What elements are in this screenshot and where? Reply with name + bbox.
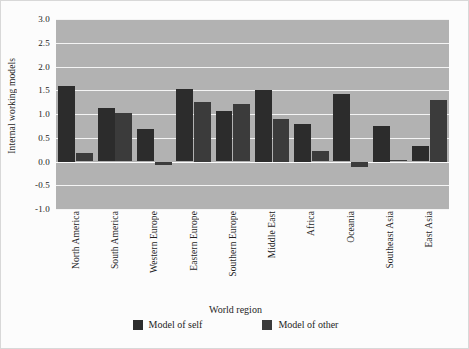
y-tick-label: -0.5 bbox=[35, 180, 50, 190]
x-tick-label: Oceania bbox=[346, 211, 356, 243]
x-tick-label: South America bbox=[110, 211, 120, 269]
x-tick-label: Eastern Europe bbox=[189, 211, 199, 271]
bar-chart-figure: Internal working models 3.02.52.01.51.00… bbox=[0, 0, 469, 349]
bar bbox=[98, 108, 115, 161]
bars-layer bbox=[56, 19, 449, 209]
bar bbox=[76, 153, 93, 162]
y-tick-label: 1.5 bbox=[38, 85, 50, 95]
bar-group bbox=[253, 19, 292, 209]
bar bbox=[137, 129, 154, 161]
y-tick-label: 3.0 bbox=[38, 14, 50, 24]
bar-group bbox=[410, 19, 449, 209]
legend-entry: Model of self bbox=[133, 319, 203, 330]
y-tick-label: 1.0 bbox=[38, 109, 50, 119]
bar-group bbox=[292, 19, 331, 209]
plot-area bbox=[56, 19, 449, 209]
bar bbox=[115, 113, 132, 162]
y-tick-label: 0.5 bbox=[38, 133, 50, 143]
bar bbox=[233, 104, 250, 162]
legend-label: Model of other bbox=[278, 319, 338, 330]
y-tick-label: -1.0 bbox=[35, 204, 50, 214]
bar-group bbox=[174, 19, 213, 209]
bar bbox=[58, 86, 75, 162]
y-tick-label: 2.0 bbox=[38, 62, 50, 72]
bar bbox=[351, 162, 368, 168]
bar bbox=[373, 126, 390, 162]
x-tick-label: Southern Europe bbox=[228, 211, 238, 277]
legend-swatch bbox=[262, 320, 272, 330]
bar-group bbox=[331, 19, 370, 209]
legend-entry: Model of other bbox=[262, 319, 338, 330]
bar-group bbox=[135, 19, 174, 209]
legend-swatch bbox=[133, 320, 143, 330]
bar bbox=[333, 94, 350, 161]
bar bbox=[412, 146, 429, 161]
x-axis-title: World region bbox=[1, 304, 469, 315]
bar bbox=[312, 151, 329, 161]
bar bbox=[255, 90, 272, 161]
x-tick-label: Africa bbox=[306, 211, 316, 236]
x-axis-title-text: World region bbox=[209, 304, 262, 315]
x-tick-label: Western Europe bbox=[149, 211, 159, 273]
bar-group bbox=[95, 19, 134, 209]
legend-label: Model of self bbox=[149, 319, 203, 330]
x-axis-tick-labels: North AmericaSouth AmericaWestern Europe… bbox=[56, 211, 449, 303]
x-tick-label: Middle East bbox=[267, 211, 277, 258]
bar bbox=[273, 119, 290, 162]
bar bbox=[294, 124, 311, 162]
y-tick-label: 0.0 bbox=[38, 157, 50, 167]
chart-legend: Model of selfModel of other bbox=[1, 319, 469, 330]
bar bbox=[390, 160, 407, 161]
x-tick-label: East Asia bbox=[424, 211, 434, 248]
bar bbox=[216, 111, 233, 162]
x-tick-label: North America bbox=[71, 211, 81, 269]
bar-group bbox=[56, 19, 95, 209]
bar bbox=[155, 162, 172, 166]
bar bbox=[194, 102, 211, 161]
bar bbox=[430, 100, 447, 162]
y-axis-tick-labels: 3.02.52.01.51.00.50.0-0.5-1.0 bbox=[19, 19, 53, 209]
bar-group bbox=[370, 19, 409, 209]
x-tick-label: Southeast Asia bbox=[385, 211, 395, 269]
bar bbox=[176, 89, 193, 161]
y-axis-title-text: Internal working models bbox=[7, 58, 17, 154]
y-tick-label: 2.5 bbox=[38, 38, 50, 48]
bar-group bbox=[213, 19, 252, 209]
